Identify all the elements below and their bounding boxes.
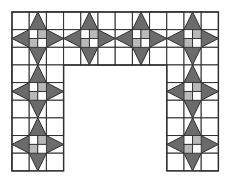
gray-square <box>38 136 47 145</box>
grid-cell <box>150 47 167 65</box>
gray-square <box>193 83 202 92</box>
grid-cell <box>115 12 132 30</box>
grid-cell <box>167 100 184 118</box>
gray-square <box>184 144 193 153</box>
white-square <box>29 83 38 92</box>
white-square <box>29 30 38 39</box>
grid-cell <box>64 12 81 30</box>
quilt-diagram <box>0 0 227 182</box>
gray-square <box>29 38 38 47</box>
gray-square <box>29 144 38 153</box>
white-square <box>38 38 47 47</box>
grid-cell <box>46 100 63 118</box>
four-patch <box>81 30 98 48</box>
gray-square <box>38 83 47 92</box>
grid-cell <box>12 153 29 171</box>
grid-cell <box>201 153 218 171</box>
four-patch <box>29 30 46 48</box>
grid-cell <box>46 47 63 65</box>
four-patch <box>184 136 201 154</box>
grid-cell <box>167 118 184 136</box>
grid-cell <box>12 65 29 83</box>
grid-cell <box>12 47 29 65</box>
grid-cell <box>167 47 184 65</box>
white-square <box>193 38 202 47</box>
grid-cell <box>46 153 63 171</box>
grid-cell <box>115 47 132 65</box>
grid-cell <box>201 12 218 30</box>
grid-cell <box>201 47 218 65</box>
white-square <box>89 38 98 47</box>
grid-cell <box>201 65 218 83</box>
grid-cell <box>201 118 218 136</box>
white-square <box>38 91 47 100</box>
grid-cell <box>167 153 184 171</box>
grid-cell <box>12 12 29 30</box>
grid-cell <box>12 100 29 118</box>
four-patch <box>132 30 149 48</box>
grid-cell <box>12 118 29 136</box>
gray-square <box>38 30 47 39</box>
four-patch <box>184 83 201 101</box>
gray-square <box>193 136 202 145</box>
white-square <box>184 83 193 92</box>
white-square <box>38 144 47 153</box>
gray-square <box>184 91 193 100</box>
gray-square <box>193 30 202 39</box>
white-square <box>193 144 202 153</box>
grid-cell <box>98 47 115 65</box>
gray-square <box>132 38 141 47</box>
grid-cell <box>46 12 63 30</box>
four-patch <box>184 30 201 48</box>
grid-cell <box>46 118 63 136</box>
grid-cell <box>167 65 184 83</box>
grid-cell <box>98 12 115 30</box>
white-square <box>184 136 193 145</box>
gray-square <box>81 38 90 47</box>
white-square <box>29 136 38 145</box>
grid-cell <box>64 47 81 65</box>
grid-cell <box>167 12 184 30</box>
grid-cell <box>201 100 218 118</box>
white-square <box>81 30 90 39</box>
gray-square <box>29 91 38 100</box>
gray-square <box>141 30 150 39</box>
gray-square <box>184 38 193 47</box>
four-patch <box>29 83 46 101</box>
grid-cell <box>150 12 167 30</box>
grid-cell <box>46 65 63 83</box>
white-square <box>141 38 150 47</box>
gray-square <box>89 30 98 39</box>
four-patch <box>29 136 46 154</box>
white-square <box>184 30 193 39</box>
white-square <box>193 91 202 100</box>
white-square <box>132 30 141 39</box>
